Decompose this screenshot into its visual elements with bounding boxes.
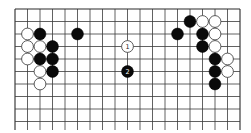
white-stone[interactable] — [209, 41, 221, 53]
white-stone-circle — [222, 53, 234, 65]
white-stone[interactable] — [34, 41, 46, 53]
black-stone-circle — [47, 66, 59, 78]
white-stone-circle — [22, 53, 34, 65]
white-stone[interactable] — [22, 41, 34, 53]
black-stone-circle — [197, 28, 209, 40]
white-stone[interactable] — [222, 66, 234, 78]
move-number-label: 2 — [125, 68, 129, 76]
white-stone-circle — [22, 41, 34, 53]
black-stone-circle — [47, 41, 59, 53]
white-stone-circle — [34, 66, 46, 78]
black-stone-circle — [209, 78, 221, 90]
white-stone[interactable] — [34, 66, 46, 78]
white-stone[interactable] — [209, 28, 221, 40]
black-stone[interactable] — [47, 53, 59, 65]
black-stone-circle — [34, 28, 46, 40]
black-stone[interactable] — [184, 16, 196, 28]
black-stone-circle — [72, 28, 84, 40]
black-stone-circle — [47, 53, 59, 65]
black-stone[interactable] — [209, 66, 221, 78]
black-stone[interactable]: 2 — [122, 66, 134, 78]
black-stone[interactable] — [47, 66, 59, 78]
go-board[interactable]: 12 — [0, 0, 251, 133]
black-stone[interactable] — [197, 41, 209, 53]
white-stone-circle — [22, 28, 34, 40]
white-stone[interactable] — [209, 16, 221, 28]
white-stone-circle — [209, 16, 221, 28]
black-stone-circle — [197, 41, 209, 53]
white-stone-circle — [222, 66, 234, 78]
black-stone[interactable] — [34, 28, 46, 40]
black-stone-circle — [34, 53, 46, 65]
black-stone[interactable] — [172, 28, 184, 40]
white-stone-circle — [34, 41, 46, 53]
white-stone-circle — [34, 78, 46, 90]
black-stone-circle — [172, 28, 184, 40]
black-stone[interactable] — [197, 28, 209, 40]
black-stone-circle — [209, 53, 221, 65]
white-stone[interactable]: 1 — [122, 41, 134, 53]
white-stone-circle — [197, 16, 209, 28]
black-stone[interactable] — [47, 41, 59, 53]
white-stone-circle — [209, 28, 221, 40]
black-stone[interactable] — [72, 28, 84, 40]
black-stone[interactable] — [34, 53, 46, 65]
white-stone[interactable] — [197, 16, 209, 28]
black-stone-circle — [184, 16, 196, 28]
black-stone[interactable] — [209, 78, 221, 90]
white-stone[interactable] — [222, 53, 234, 65]
white-stone-circle — [209, 41, 221, 53]
black-stone-circle — [209, 66, 221, 78]
white-stone[interactable] — [22, 53, 34, 65]
white-stone[interactable] — [22, 28, 34, 40]
move-number-label: 1 — [125, 43, 129, 51]
white-stone[interactable] — [34, 78, 46, 90]
black-stone[interactable] — [209, 53, 221, 65]
